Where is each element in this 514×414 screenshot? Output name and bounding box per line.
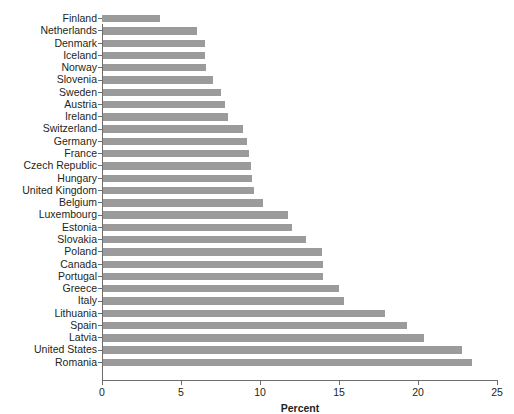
x-axis-tick <box>260 381 261 385</box>
bar <box>102 297 344 304</box>
x-axis-line <box>102 380 498 381</box>
x-axis-title: Percent <box>102 402 498 414</box>
x-axis-tick <box>102 381 103 385</box>
bar <box>102 236 306 243</box>
bar <box>102 359 472 366</box>
bar <box>102 138 247 145</box>
bar <box>102 125 243 132</box>
bar <box>102 150 249 157</box>
x-axis-tick <box>418 381 419 385</box>
plot-area: FinlandNetherlandsDenmarkIcelandNorwaySl… <box>0 12 514 372</box>
bar <box>102 346 462 353</box>
bar <box>102 175 252 182</box>
bar <box>102 334 424 341</box>
bar <box>102 15 160 22</box>
x-axis-tick <box>181 381 182 385</box>
x-axis-tick-label: 25 <box>477 386 514 398</box>
x-axis-tick <box>497 381 498 385</box>
bar <box>102 40 205 47</box>
bar <box>102 310 385 317</box>
x-axis-tick-label: 20 <box>398 386 438 398</box>
bar <box>102 113 228 120</box>
bar <box>102 199 263 206</box>
bar <box>102 285 339 292</box>
bar <box>102 76 213 83</box>
category-label: Romania <box>55 356 97 370</box>
bar <box>102 224 292 231</box>
bar <box>102 89 221 96</box>
bar <box>102 27 197 34</box>
bar <box>102 187 254 194</box>
bar <box>102 211 288 218</box>
bar <box>102 101 225 108</box>
x-axis-tick-label: 5 <box>161 386 201 398</box>
bar <box>102 322 407 329</box>
bar <box>102 273 323 280</box>
x-axis-tick-label: 10 <box>240 386 280 398</box>
y-axis-line <box>102 24 103 381</box>
x-axis-tick-label: 15 <box>319 386 359 398</box>
bar <box>102 52 205 59</box>
x-axis-tick <box>339 381 340 385</box>
bar <box>102 64 206 71</box>
bar <box>102 261 323 268</box>
chart-title <box>18 0 418 2</box>
bar <box>102 162 251 169</box>
bar <box>102 248 322 255</box>
x-axis-tick-label: 0 <box>82 386 122 398</box>
bar-row: Romania <box>0 356 514 370</box>
